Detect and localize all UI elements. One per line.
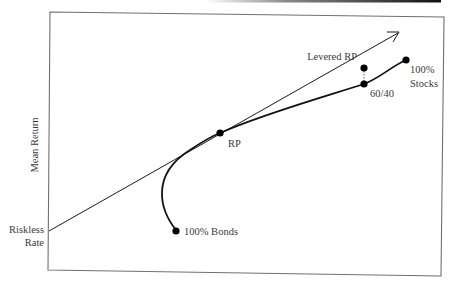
point-levered-rp — [360, 64, 367, 71]
label-riskless-line2: Rate — [25, 237, 45, 248]
label-100-bonds: 100% Bonds — [184, 226, 238, 237]
label-stocks-line2: Stocks — [410, 78, 438, 89]
top-edge-bar — [205, 0, 441, 3]
point-100-stocks — [402, 56, 409, 63]
point-rp — [216, 129, 223, 136]
plot-frame — [48, 12, 444, 276]
risk-parity-diagram: Mean Return Riskless Rate Levered RP 60/… — [0, 0, 452, 282]
label-levered-rp: Levered RP — [307, 51, 357, 62]
y-axis-label: Mean Return — [29, 117, 40, 173]
label-stocks-line1: 100% — [410, 64, 435, 75]
efficient-frontier-curve — [162, 60, 406, 230]
point-60-40 — [360, 80, 367, 87]
label-rp: RP — [228, 138, 241, 149]
label-riskless-line1: Riskless — [9, 224, 44, 235]
label-60-40: 60/40 — [370, 88, 394, 99]
point-100-bonds — [172, 227, 179, 234]
